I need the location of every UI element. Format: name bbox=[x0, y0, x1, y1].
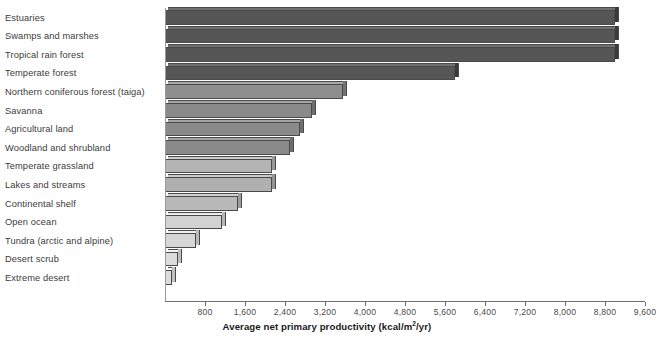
bar bbox=[165, 140, 290, 155]
x-axis-tick-label: 8,000 bbox=[543, 307, 587, 317]
x-axis-tick bbox=[605, 302, 606, 306]
x-axis-tick bbox=[285, 302, 286, 306]
bar bbox=[165, 233, 196, 248]
x-axis-tick-label: 9,600 bbox=[623, 307, 661, 317]
x-axis-tick bbox=[365, 302, 366, 306]
bar bbox=[165, 159, 272, 174]
bar-front-facet bbox=[165, 233, 196, 248]
bar-front-facet bbox=[165, 140, 290, 155]
bar-front-facet bbox=[165, 103, 312, 118]
y-axis-line bbox=[165, 8, 166, 301]
bar bbox=[165, 10, 615, 25]
bar-front-facet bbox=[165, 47, 615, 62]
x-axis-tick bbox=[525, 302, 526, 306]
bar bbox=[165, 196, 238, 211]
x-axis-title: Average net primary productivity (kcal/m… bbox=[0, 320, 654, 332]
bar bbox=[165, 84, 343, 99]
bar-front-facet bbox=[165, 29, 615, 44]
bar-side-facet bbox=[290, 137, 294, 152]
bar-front-facet bbox=[165, 270, 172, 285]
x-axis-tick bbox=[245, 302, 246, 306]
x-axis-tick-label: 4,800 bbox=[383, 307, 427, 317]
x-axis-tick bbox=[645, 302, 646, 306]
bar-side-facet bbox=[300, 119, 304, 134]
x-axis-title-main: Average net primary productivity (kcal/m bbox=[223, 321, 413, 332]
x-axis-tick-label: 8,800 bbox=[583, 307, 627, 317]
bar bbox=[165, 122, 300, 137]
bar bbox=[165, 66, 455, 81]
bar-side-facet bbox=[196, 230, 200, 245]
bar bbox=[165, 177, 272, 192]
x-axis-tick-label: 800 bbox=[183, 307, 227, 317]
bar-front-facet bbox=[165, 215, 222, 230]
bar-front-facet bbox=[165, 122, 300, 137]
bar-front-facet bbox=[165, 10, 615, 25]
bar-side-facet bbox=[178, 249, 182, 264]
bar-side-facet bbox=[343, 81, 347, 96]
bar-side-facet bbox=[312, 100, 316, 115]
x-axis-tick-label: 4,000 bbox=[343, 307, 387, 317]
x-axis-tick-label: 6,400 bbox=[463, 307, 507, 317]
bar-side-facet bbox=[222, 212, 226, 227]
x-axis-tick bbox=[445, 302, 446, 306]
bar-side-facet bbox=[615, 44, 619, 59]
bar-side-facet bbox=[238, 193, 242, 208]
bar bbox=[165, 29, 615, 44]
x-axis-tick-label: 5,600 bbox=[423, 307, 467, 317]
x-axis-tick bbox=[405, 302, 406, 306]
x-axis-tick-label: 3,200 bbox=[303, 307, 347, 317]
bar-front-facet bbox=[165, 159, 272, 174]
bar-side-facet bbox=[615, 7, 619, 22]
bar bbox=[165, 47, 615, 62]
x-axis-tick bbox=[205, 302, 206, 306]
bar bbox=[165, 252, 178, 267]
bar-side-facet bbox=[272, 174, 276, 189]
bar-side-facet bbox=[172, 267, 176, 282]
plot-area bbox=[0, 0, 654, 300]
bar bbox=[165, 215, 222, 230]
x-axis-tick bbox=[325, 302, 326, 306]
x-axis-tick-label: 2,400 bbox=[263, 307, 307, 317]
bar-front-facet bbox=[165, 196, 238, 211]
bar-side-facet bbox=[455, 63, 459, 78]
bar-front-facet bbox=[165, 177, 272, 192]
bar bbox=[165, 270, 172, 285]
x-axis-tick-label: 7,200 bbox=[503, 307, 547, 317]
bar-front-facet bbox=[165, 84, 343, 99]
x-axis-tick-label: 1,600 bbox=[223, 307, 267, 317]
bar-front-facet bbox=[165, 252, 178, 267]
bar-side-facet bbox=[272, 156, 276, 171]
x-axis-tick bbox=[565, 302, 566, 306]
bar bbox=[165, 103, 312, 118]
bar-front-facet bbox=[165, 66, 455, 81]
x-axis-tick bbox=[485, 302, 486, 306]
x-axis-title-tail: /yr) bbox=[416, 321, 431, 332]
bar-side-facet bbox=[615, 26, 619, 41]
